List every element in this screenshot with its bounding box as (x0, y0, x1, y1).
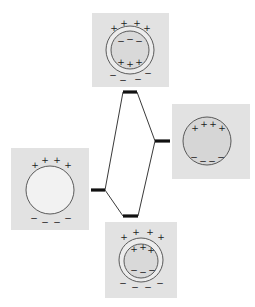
svg-text:−: − (64, 213, 72, 223)
svg-text:+: + (130, 244, 138, 254)
svg-text:−: − (208, 156, 216, 166)
svg-text:−: − (126, 34, 134, 44)
svg-text:−: − (135, 36, 143, 46)
svg-text:−: − (217, 152, 225, 162)
svg-text:+: + (209, 119, 217, 129)
svg-text:+: + (139, 242, 147, 252)
svg-text:+: + (117, 57, 125, 67)
svg-text:−: − (53, 217, 61, 227)
hybridization-connectors (105, 92, 155, 216)
svg-text:−: − (190, 152, 198, 162)
svg-text:−: − (30, 213, 38, 223)
svg-text:+: + (157, 232, 165, 242)
svg-text:+: + (135, 57, 143, 67)
energy-levels (91, 92, 170, 216)
energy-diagram: + + + + − − − + + + − − − − + + + + (0, 0, 255, 307)
svg-text:+: + (110, 23, 118, 33)
svg-text:+: + (64, 160, 72, 170)
svg-text:+: + (143, 23, 151, 33)
svg-text:−: − (119, 278, 127, 288)
svg-text:+: + (120, 232, 128, 242)
svg-text:−: − (144, 68, 152, 78)
svg-text:−: − (41, 217, 49, 227)
svg-text:+: + (147, 245, 155, 255)
sphere-panel: + + + + − − − − (11, 148, 89, 230)
svg-text:−: − (119, 75, 127, 85)
antibonding-panel: + + + + − − − + + + − − − − (92, 13, 169, 87)
svg-text:−: − (117, 36, 125, 46)
svg-text:+: + (41, 155, 49, 165)
svg-text:−: − (156, 278, 164, 288)
svg-text:+: + (133, 18, 141, 28)
svg-text:−: − (109, 70, 117, 80)
sphere (26, 166, 74, 214)
svg-text:+: + (53, 155, 61, 165)
svg-text:−: − (199, 156, 207, 166)
svg-text:−: − (148, 265, 156, 275)
svg-text:−: − (144, 282, 152, 292)
svg-text:+: + (200, 119, 208, 129)
svg-text:−: − (131, 282, 139, 292)
svg-text:−: − (134, 74, 142, 84)
svg-text:+: + (218, 123, 226, 133)
connector-cavity-antibonding (137, 92, 155, 141)
bonding-panel: + + + + + + + − − − − − − − (105, 222, 177, 298)
svg-text:+: + (126, 59, 134, 69)
cavity-panel: + + + + − − − − (172, 104, 250, 179)
connector-sphere-antibonding (105, 92, 123, 190)
svg-text:+: + (120, 18, 128, 28)
connector-cavity-bonding (138, 141, 155, 216)
svg-text:+: + (146, 227, 154, 237)
svg-text:+: + (132, 227, 140, 237)
svg-text:+: + (31, 160, 39, 170)
svg-text:+: + (191, 123, 199, 133)
connector-sphere-bonding (105, 190, 123, 216)
svg-text:−: − (139, 267, 147, 277)
svg-text:−: − (130, 265, 138, 275)
